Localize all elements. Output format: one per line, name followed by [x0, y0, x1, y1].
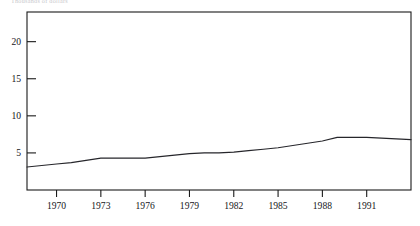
x-tick-label: 1973 [91, 200, 110, 211]
chart-figure: Thousands of dollars 5101520 19701973197… [0, 0, 420, 226]
x-axis: 19701973197619791982198519881991 [47, 190, 377, 211]
plot-border [27, 12, 411, 190]
x-tick-label: 1970 [47, 200, 66, 211]
y-tick-label: 10 [11, 110, 21, 121]
x-tick-label: 1982 [224, 200, 243, 211]
x-tick-label: 1991 [357, 200, 376, 211]
y-tick-label: 20 [11, 36, 21, 47]
y-axis: 5101520 [11, 36, 36, 158]
x-tick-label: 1988 [313, 200, 332, 211]
data-line-value [27, 137, 411, 167]
x-tick-label: 1985 [268, 200, 287, 211]
plot-frame [27, 12, 411, 190]
y-tick-label: 5 [16, 147, 21, 158]
x-tick-label: 1979 [180, 200, 199, 211]
x-tick-label: 1976 [136, 200, 155, 211]
line-chart-plot: 5101520 19701973197619791982198519881991 [0, 0, 420, 226]
data-series-group [27, 137, 411, 167]
y-tick-label: 15 [11, 73, 21, 84]
